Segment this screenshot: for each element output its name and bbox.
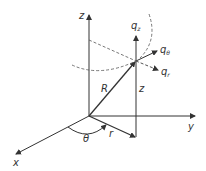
q-theta-vector xyxy=(136,51,157,61)
z-height-label: z xyxy=(138,83,145,94)
R-vector xyxy=(89,62,135,116)
y-axis-label: y xyxy=(187,121,195,132)
q-r-vector xyxy=(136,61,158,70)
q-theta-label: qθ xyxy=(160,44,170,56)
dashed-vertical-arc xyxy=(140,14,152,58)
x-axis xyxy=(16,116,89,154)
z-axis-label: z xyxy=(78,10,85,21)
dashed-projection xyxy=(89,40,136,61)
x-axis-label: x xyxy=(12,157,19,168)
r-label: r xyxy=(109,128,114,139)
theta-label: θ xyxy=(83,133,89,144)
q-r-label: qr xyxy=(161,66,170,78)
dashed-horizontal-arc xyxy=(72,61,136,71)
q-z-label: qz xyxy=(131,20,141,32)
R-label: R xyxy=(101,83,108,94)
cylindrical-coordinates-diagram: z y x R r θ z qz qθ qr xyxy=(0,0,206,171)
